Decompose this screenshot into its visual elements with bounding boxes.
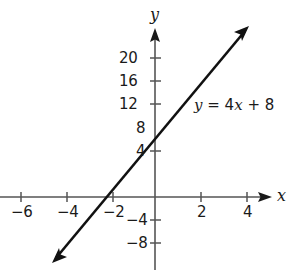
x-tick-label-4: 4 [243, 205, 252, 220]
y-axis-label: y [150, 7, 159, 23]
x-tick-label-neg4: −4 [57, 205, 79, 220]
y-tick-label-neg8: −8 [126, 236, 148, 251]
x-tick-label-neg6: −6 [11, 205, 33, 220]
equation-mid: = 4 [202, 96, 234, 114]
y-tick-label-12: 12 [119, 97, 138, 112]
line-arrowhead-upper [234, 26, 249, 41]
equation-variable: x [234, 96, 242, 114]
x-axis-label: x [277, 188, 286, 204]
y-tick-label-16: 16 [119, 74, 138, 89]
equation-annotation: y = 4x + 8 [194, 98, 274, 113]
y-tick-label-neg4: −4 [126, 213, 148, 228]
y-tick-label-4: 4 [136, 144, 145, 159]
x-tick-label-2: 2 [197, 205, 206, 220]
line-graph [56, 31, 245, 258]
line-arrowhead-lower [52, 248, 67, 263]
x-tick-label-neg2: −2 [103, 205, 125, 220]
y-tick-label-20: 20 [119, 51, 138, 66]
equation-rhs: + 8 [243, 96, 275, 114]
y-tick-label-8: 8 [136, 121, 145, 136]
graph-figure: y x 20 16 12 8 4 −4 −8 −6 −4 −2 2 4 y = … [0, 0, 291, 270]
coordinate-plane [0, 0, 291, 270]
